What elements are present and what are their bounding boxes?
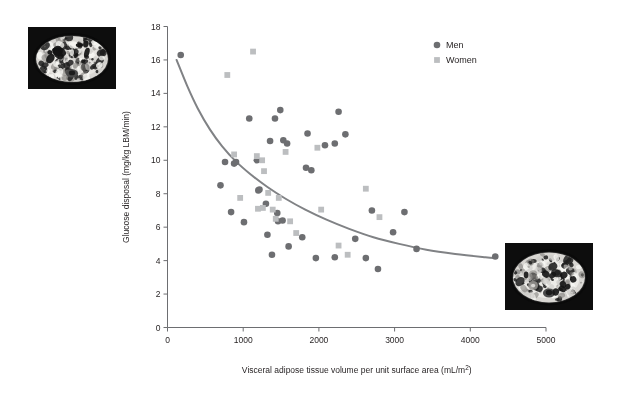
legend-marker-women	[434, 57, 440, 63]
data-point-women	[273, 216, 279, 222]
data-point-women	[377, 214, 383, 220]
data-point-men	[217, 182, 224, 189]
y-tick-label: 12	[151, 122, 161, 132]
data-point-men	[304, 130, 311, 137]
data-point-men	[335, 108, 342, 115]
data-point-men	[222, 159, 229, 166]
data-point-women	[270, 207, 276, 213]
legend: MenWomen	[434, 40, 477, 65]
data-point-women	[250, 49, 256, 55]
data-point-men	[413, 246, 420, 253]
x-tick-label: 5000	[537, 335, 556, 345]
y-tick-label: 16	[151, 55, 161, 65]
legend-label-men: Men	[446, 40, 464, 50]
data-point-women	[231, 152, 237, 158]
legend-label-women: Women	[446, 55, 477, 65]
data-point-men	[272, 115, 279, 122]
legend-marker-men	[434, 42, 441, 49]
data-point-men	[267, 138, 274, 145]
series-women	[224, 49, 382, 258]
data-point-men	[313, 255, 320, 262]
data-point-women	[259, 157, 265, 163]
data-point-men	[246, 115, 253, 122]
data-point-men	[264, 231, 271, 238]
data-point-men	[269, 251, 276, 258]
data-point-men	[332, 254, 339, 261]
data-point-men	[177, 52, 184, 59]
data-point-men	[241, 219, 248, 226]
y-tick-label: 0	[156, 323, 161, 333]
y-tick-label: 10	[151, 155, 161, 165]
data-point-men	[256, 186, 263, 193]
y-tick-label: 8	[156, 189, 161, 199]
data-point-men	[363, 255, 370, 262]
x-tick-label: 3000	[385, 335, 404, 345]
series-men	[177, 52, 498, 273]
x-tick-label: 4000	[461, 335, 480, 345]
data-point-men	[352, 236, 359, 243]
y-tick-label: 4	[156, 256, 161, 266]
data-point-women	[314, 145, 320, 151]
data-point-men	[279, 217, 286, 224]
scatter-plot: 024681012141618010002000300040005000Visc…	[0, 0, 642, 394]
data-point-men	[369, 207, 376, 214]
axes-layer	[164, 27, 547, 332]
data-point-women	[260, 205, 266, 211]
data-points-layer	[177, 49, 498, 273]
y-tick-label: 2	[156, 289, 161, 299]
x-axis-title: Visceral adipose tissue volume per unit …	[242, 364, 472, 376]
data-point-men	[332, 140, 339, 147]
data-point-men	[390, 229, 397, 236]
data-point-men	[284, 140, 291, 147]
data-point-women	[283, 149, 289, 155]
data-point-men	[228, 209, 235, 216]
y-tick-label: 14	[151, 88, 161, 98]
data-point-women	[345, 252, 351, 258]
data-point-women	[363, 186, 369, 192]
data-point-men	[299, 234, 306, 241]
data-point-men	[277, 107, 284, 114]
y-tick-label: 6	[156, 222, 161, 232]
y-tick-label: 18	[151, 22, 161, 32]
data-point-women	[287, 218, 293, 224]
data-point-men	[233, 159, 240, 166]
data-point-women	[265, 190, 271, 196]
data-point-women	[224, 72, 230, 78]
data-point-women	[318, 207, 324, 213]
axis-labels-layer: 024681012141618010002000300040005000Visc…	[121, 22, 556, 376]
y-axis-title: Glucose disposal (mg/kg LBM/min)	[121, 111, 131, 243]
data-point-men	[492, 253, 499, 260]
data-point-men	[322, 142, 329, 149]
data-point-men	[375, 266, 382, 273]
data-point-women	[293, 230, 299, 236]
data-point-women	[336, 243, 342, 249]
data-point-men	[285, 243, 292, 250]
x-tick-label: 2000	[309, 335, 328, 345]
data-point-women	[276, 195, 282, 201]
data-point-men	[401, 209, 408, 216]
data-point-women	[254, 153, 260, 159]
data-point-women	[237, 195, 243, 201]
x-tick-label: 1000	[234, 335, 253, 345]
x-tick-label: 0	[165, 335, 170, 345]
data-point-men	[308, 167, 315, 174]
data-point-men	[342, 131, 349, 138]
figure-root: 024681012141618010002000300040005000Visc…	[0, 0, 642, 394]
data-point-women	[261, 168, 267, 174]
